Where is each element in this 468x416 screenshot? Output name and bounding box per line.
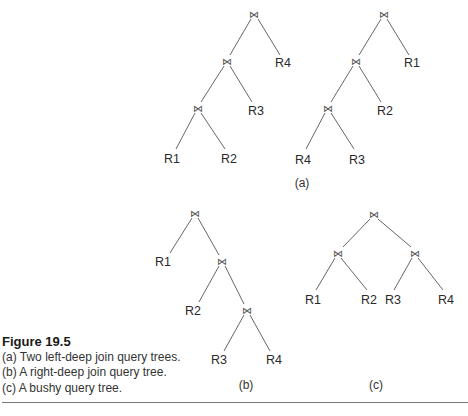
join-icon: ⋈ xyxy=(333,248,343,259)
relation-label: R2 xyxy=(361,293,377,307)
caption-line: (c) A bushy query tree. xyxy=(2,381,181,397)
caption-line: (b) A right-deep join query tree. xyxy=(2,365,181,381)
join-icon: ⋈ xyxy=(193,103,203,114)
caption-line: (a) Two left-deep join query trees. xyxy=(2,350,181,366)
panel-label-a: (a) xyxy=(295,176,310,190)
relation-label: R1 xyxy=(164,152,180,166)
join-icon: ⋈ xyxy=(379,9,389,20)
divider-rule xyxy=(2,402,468,403)
join-icon: ⋈ xyxy=(249,9,259,20)
relation-label: R4 xyxy=(295,153,311,167)
join-icon: ⋈ xyxy=(242,305,252,316)
figure-caption: Figure 19.5 (a) Two left-deep join query… xyxy=(2,334,181,396)
relation-label: R1 xyxy=(155,255,171,269)
relation-label: R4 xyxy=(275,56,291,70)
relation-label: R2 xyxy=(221,152,237,166)
join-icon: ⋈ xyxy=(190,208,200,219)
panel-label-b: (b) xyxy=(239,378,254,392)
relation-label: R3 xyxy=(211,353,227,367)
relation-label: R3 xyxy=(349,153,365,167)
join-icon: ⋈ xyxy=(369,209,379,220)
relation-label: R2 xyxy=(377,104,393,118)
relation-label: R1 xyxy=(305,293,321,307)
join-icon: ⋈ xyxy=(222,56,232,67)
join-icon: ⋈ xyxy=(323,103,333,114)
panel-label-c: (c) xyxy=(369,378,383,392)
relation-label: R3 xyxy=(248,104,264,118)
join-icon: ⋈ xyxy=(351,56,361,67)
relation-label: R3 xyxy=(385,293,401,307)
tree-a2: ⋈ ⋈ ⋈ R1 R2 R4 R3 (a) xyxy=(295,9,420,190)
relation-label: R4 xyxy=(266,353,282,367)
join-icon: ⋈ xyxy=(217,256,227,267)
tree-a1: ⋈ ⋈ ⋈ R4 R3 R1 R2 xyxy=(164,9,291,166)
join-icon: ⋈ xyxy=(410,248,420,259)
relation-label: R1 xyxy=(404,56,420,70)
figure-title: Figure 19.5 xyxy=(2,334,181,350)
relation-label: R4 xyxy=(438,293,454,307)
relation-label: R2 xyxy=(185,304,201,318)
tree-c: ⋈ ⋈ ⋈ R1 R2 R3 R4 (c) xyxy=(305,209,454,392)
